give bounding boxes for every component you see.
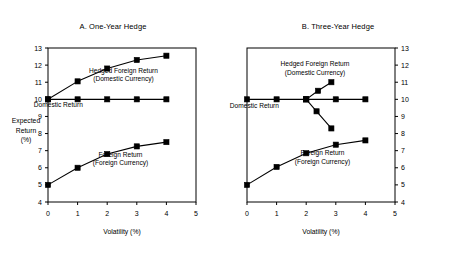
data-point-marker <box>105 97 110 102</box>
data-point-marker <box>244 182 249 187</box>
data-point-marker <box>314 109 319 114</box>
series-annotation: Domestic Return <box>34 101 83 108</box>
data-point-marker <box>363 138 368 143</box>
x-tick-label: 1 <box>76 210 80 217</box>
x-axis-label: Volatility (%) <box>103 228 140 236</box>
figure-container: A. One-Year Hedge 45678910111213 012345 … <box>0 0 451 254</box>
y-tick-label: 13 <box>34 45 42 52</box>
y-tick-label: 11 <box>401 79 408 86</box>
y-tick-label: 10 <box>401 96 409 103</box>
series-annotation: (Foreign Currency) <box>295 158 350 166</box>
data-point-marker <box>164 53 169 58</box>
series-annotation: Foreign Return <box>99 151 143 159</box>
y-tick-label: 9 <box>401 113 405 120</box>
data-point-marker <box>164 97 169 102</box>
data-point-marker <box>75 79 80 84</box>
data-point-marker <box>274 164 279 169</box>
series-annotation: (Domestic Currency) <box>93 75 153 83</box>
x-tick-label: 2 <box>105 210 109 217</box>
y-axis-label-line: (%) <box>21 136 32 144</box>
x-tick-label: 4 <box>363 210 367 217</box>
x-axis-label: Volatility (%) <box>302 228 339 236</box>
x-tick-label: 5 <box>194 210 198 217</box>
data-point-marker <box>134 144 139 149</box>
x-tick-label: 0 <box>46 210 50 217</box>
y-tick-label: 11 <box>35 79 42 86</box>
series-annotation: Foreign Return <box>300 149 344 157</box>
y-tick-label: 8 <box>401 130 405 137</box>
chart-panel-b: B. Three-Year Hedge 45678910111213 01234… <box>225 0 451 254</box>
data-point-marker <box>75 165 80 170</box>
data-point-marker <box>134 97 139 102</box>
series-annotation: (Foreign Currency) <box>93 159 148 167</box>
data-point-marker <box>164 140 169 145</box>
data-point-marker <box>329 80 334 85</box>
x-tick-label: 4 <box>164 210 168 217</box>
y-tick-label: 5 <box>401 181 405 188</box>
panel-b-plot: 45678910111213 012345 Hedged Foreign Ret… <box>225 0 451 254</box>
x-tick-label: 3 <box>135 210 139 217</box>
y-tick-label: 6 <box>401 164 405 171</box>
data-point-marker <box>134 57 139 62</box>
y-axis-label-line: Return <box>16 127 37 134</box>
x-tick-label: 3 <box>334 210 338 217</box>
chart-panel-a: A. One-Year Hedge 45678910111213 012345 … <box>0 0 226 254</box>
data-point-marker <box>363 97 368 102</box>
y-axis-label-line: Expected <box>12 117 41 125</box>
x-tick-label: 5 <box>393 210 397 217</box>
data-point-marker <box>315 88 320 93</box>
y-tick-label: 12 <box>401 62 409 69</box>
series-annotation: Hedged Foreign Return <box>89 67 158 75</box>
data-point-marker <box>304 97 309 102</box>
y-tick-label: 6 <box>38 164 42 171</box>
data-point-marker <box>333 97 338 102</box>
y-tick-label: 4 <box>38 199 42 206</box>
data-point-marker <box>329 126 334 131</box>
x-tick-label: 2 <box>304 210 308 217</box>
panel-a-plot: 45678910111213 012345 Hedged Foreign Ret… <box>0 0 226 254</box>
y-tick-label: 13 <box>401 45 409 52</box>
series-annotation: (Domestic Currency) <box>285 69 345 77</box>
series-annotation: Hedged Foreign Return <box>281 60 350 68</box>
series-annotation: Domestic Return <box>230 102 279 109</box>
x-tick-label: 0 <box>245 210 249 217</box>
y-tick-label: 7 <box>38 147 42 154</box>
y-tick-label: 4 <box>401 199 405 206</box>
x-tick-label: 1 <box>275 210 279 217</box>
data-point-marker <box>45 182 50 187</box>
y-tick-label: 12 <box>34 62 42 69</box>
y-tick-label: 5 <box>38 181 42 188</box>
y-tick-label: 8 <box>38 130 42 137</box>
data-point-marker <box>333 142 338 147</box>
y-tick-label: 7 <box>401 147 405 154</box>
